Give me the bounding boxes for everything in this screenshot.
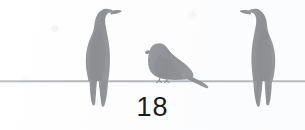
page-number: 18 xyxy=(0,92,305,122)
page-footer-illustration: 18 xyxy=(0,0,305,130)
